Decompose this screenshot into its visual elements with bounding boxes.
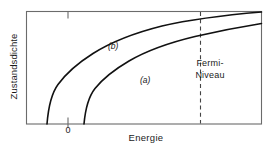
x-tick-label-zero: 0 [61, 126, 75, 135]
y-axis-label-text: Zustandsdichte [8, 10, 19, 123]
x-axis-label: Energie [111, 133, 181, 143]
fermi-level-annotation: Fermi- Niveau [188, 58, 232, 81]
curve-a [84, 24, 262, 125]
curve-label-a: (a) [140, 76, 150, 85]
fermi-level-line1: Fermi- [196, 58, 223, 68]
y-axis-label: Zustandsdichte [6, 11, 20, 124]
fermi-level-line2: Niveau [195, 70, 224, 80]
density-of-states-figure: Zustandsdichte Energie 0 (b) (a) Fermi- … [0, 0, 271, 155]
curve-label-b: (b) [108, 42, 118, 51]
